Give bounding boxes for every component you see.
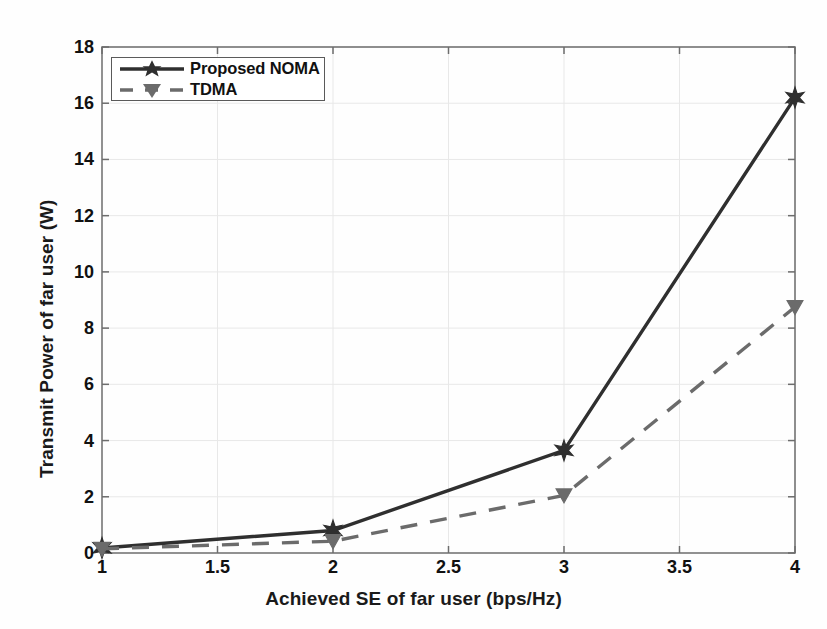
y-tick-label: 4 (54, 430, 94, 451)
y-tick-label: 16 (54, 93, 94, 114)
y-tick-label: 0 (54, 543, 94, 564)
y-tick-label: 10 (54, 261, 94, 282)
y-axis-label: Transmit Power of far user (W) (36, 199, 58, 478)
x-tick-label: 4 (790, 557, 800, 578)
x-tick-label: 1 (97, 557, 107, 578)
legend-label-tdma: TDMA (190, 80, 237, 99)
y-tick-label: 6 (54, 374, 94, 395)
legend-entry-noma: Proposed NOMA (112, 58, 324, 80)
y-tick-label: 2 (54, 486, 94, 507)
x-tick-label: 2 (328, 557, 338, 578)
x-axis-label: Achieved SE of far user (bps/Hz) (0, 588, 827, 610)
x-tick-label: 3.5 (667, 557, 692, 578)
legend-swatch-tdma (118, 79, 186, 101)
chart-legend: Proposed NOMA TDMA (111, 57, 325, 101)
y-tick-label: 12 (54, 205, 94, 226)
legend-swatch-noma (118, 58, 186, 80)
legend-entry-tdma: TDMA (112, 79, 324, 101)
x-tick-label: 2.5 (436, 557, 461, 578)
gridlines (102, 47, 795, 553)
y-tick-label: 14 (54, 149, 94, 170)
chart-figure: 024681012141618 11.522.533.54 Achieved S… (0, 0, 827, 629)
y-tick-label: 18 (54, 37, 94, 58)
x-tick-label: 3 (559, 557, 569, 578)
legend-label-noma: Proposed NOMA (190, 59, 320, 78)
y-tick-label: 8 (54, 318, 94, 339)
x-tick-label: 1.5 (205, 557, 230, 578)
